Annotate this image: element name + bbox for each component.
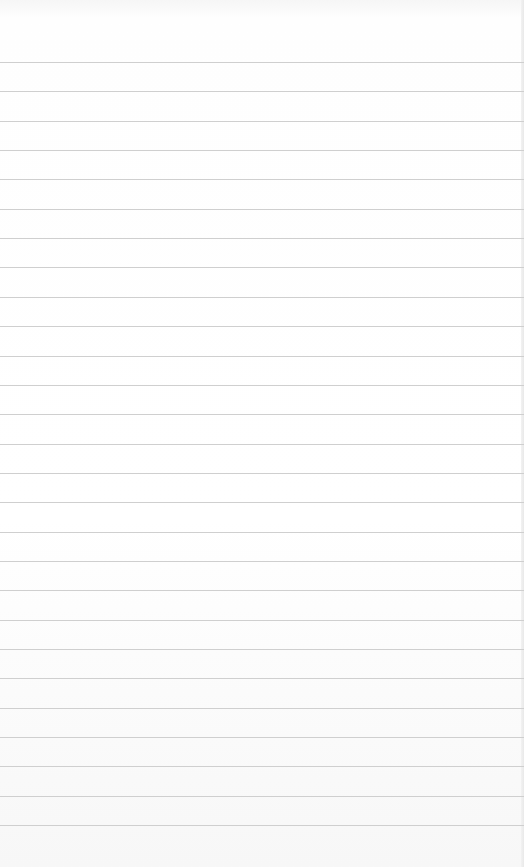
- ruled-line: [0, 385, 524, 386]
- ruled-line: [0, 678, 524, 679]
- ruled-line: [0, 179, 524, 180]
- ruled-line: [0, 238, 524, 239]
- ruled-line: [0, 150, 524, 151]
- ruled-line: [0, 414, 524, 415]
- ruled-line: [0, 62, 524, 63]
- ruled-line: [0, 590, 524, 591]
- ruled-line: [0, 326, 524, 327]
- ruled-line: [0, 532, 524, 533]
- lined-paper-page: [0, 0, 524, 867]
- ruled-line: [0, 121, 524, 122]
- ruled-line: [0, 825, 524, 826]
- ruled-line: [0, 737, 524, 738]
- ruled-line: [0, 209, 524, 210]
- ruled-line: [0, 444, 524, 445]
- ruled-line: [0, 766, 524, 767]
- ruled-line: [0, 796, 524, 797]
- ruled-line: [0, 356, 524, 357]
- ruled-line: [0, 297, 524, 298]
- ruled-line: [0, 473, 524, 474]
- ruled-line: [0, 267, 524, 268]
- ruled-line: [0, 649, 524, 650]
- ruled-line: [0, 620, 524, 621]
- ruled-line: [0, 502, 524, 503]
- ruled-line: [0, 91, 524, 92]
- ruled-line: [0, 708, 524, 709]
- ruled-line: [0, 561, 524, 562]
